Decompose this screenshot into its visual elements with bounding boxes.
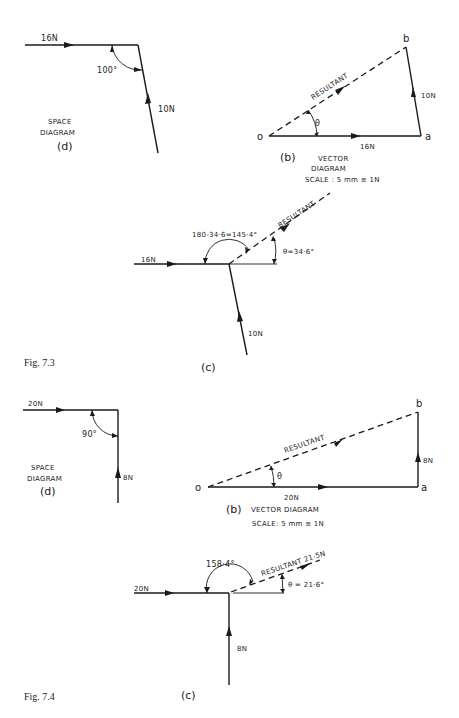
vector-diagram-tag: (b) xyxy=(280,151,296,164)
arrowhead-icon xyxy=(165,590,174,596)
resultant-label: RESULTANT xyxy=(283,433,326,455)
arrowhead-icon xyxy=(226,626,232,636)
figure-caption: Fig. 7.3 xyxy=(24,357,55,368)
resultant-diagram-tag: (c) xyxy=(181,689,196,702)
arrowhead-icon xyxy=(204,587,210,593)
arrowhead-icon xyxy=(145,93,151,104)
force-label-8n: 8N xyxy=(237,645,247,653)
arrowhead-icon xyxy=(115,467,121,478)
side-oa-label: 16N xyxy=(360,143,375,151)
space-diagram-tag: (d) xyxy=(57,140,73,153)
space-diagram-title-2: DIAGRAM xyxy=(27,475,62,483)
resultant-diagram-tag: (c) xyxy=(201,361,216,374)
space-diagram-title-2: DIAGRAM xyxy=(40,129,75,137)
point-a: a xyxy=(425,131,431,142)
arrowhead-icon xyxy=(415,452,421,462)
fig-7-4: 20N 90° 8N SPACE DIAGRAM (d) o a b 20N 8… xyxy=(23,398,433,702)
arrowhead-icon xyxy=(351,133,361,139)
point-o: o xyxy=(257,131,263,142)
arrowhead-icon xyxy=(237,311,243,322)
force-label-20n: 20N xyxy=(28,400,43,408)
vector-diagram-scale: SCALE: 5 mm ≡ 1N xyxy=(252,520,324,528)
arrowhead-icon xyxy=(64,42,74,48)
vector-diagram-title-2: DIAGRAM xyxy=(311,165,346,173)
fig74-vector-diagram: o a b 20N 8N RESULTANT θ (b) VECTOR DIAG… xyxy=(195,398,433,528)
vector-diagram-tag: (b) xyxy=(226,503,242,516)
point-b: b xyxy=(403,33,409,44)
fig73-space-diagram: 16N 100° 10N SPACE DIAGRAM (d) xyxy=(25,34,175,153)
arrowhead-icon xyxy=(318,484,328,490)
angle-label: 90° xyxy=(82,430,97,439)
side-oa-label: 20N xyxy=(284,494,299,502)
arrowhead-icon xyxy=(112,433,118,438)
fig73-resultant-diagram: 16N 10N 180-34·6=145·4° θ=34·6° RESULTAN… xyxy=(134,193,330,374)
fig-7-3: 16N 100° 10N SPACE DIAGRAM (d) o a b 16N… xyxy=(24,33,436,374)
space-diagram-tag: (d) xyxy=(40,485,56,498)
theta-label: θ xyxy=(315,119,320,128)
arrowhead-icon xyxy=(271,236,276,241)
theta-value-label: θ=34·6° xyxy=(283,248,314,256)
force-label-16n: 16N xyxy=(141,256,156,264)
theta-label: θ xyxy=(277,472,282,481)
angle-label: 100° xyxy=(97,66,117,75)
resultant-label: RESULTANT xyxy=(277,200,317,230)
arrowhead-icon xyxy=(134,67,142,72)
obtuse-angle-arc xyxy=(205,239,249,264)
arrowhead-icon xyxy=(110,45,114,52)
side-ab-label: 8N xyxy=(423,457,433,465)
theta-value-label: θ = 21·6° xyxy=(288,581,324,589)
force-label-8n: 8N xyxy=(123,474,133,482)
point-o: o xyxy=(195,482,201,493)
figure-caption: Fig. 7.4 xyxy=(24,691,55,702)
point-b: b xyxy=(416,398,422,409)
force-label-10n: 10N xyxy=(248,330,263,338)
fig74-space-diagram: 20N 90° 8N SPACE DIAGRAM (d) xyxy=(23,400,133,503)
arrowhead-icon xyxy=(334,439,343,447)
resultant-dashed-line xyxy=(208,412,418,487)
space-diagram-title-1: SPACE xyxy=(48,118,72,126)
vector-diagram-title: VECTOR DIAGRAM xyxy=(251,506,319,514)
obtuse-angle-label: 158·4° xyxy=(206,560,235,569)
side-ab-label: 10N xyxy=(421,92,436,100)
fig74-resultant-diagram: 20N 8N 158·4° θ = 21·6° RESULTANT 21·5N … xyxy=(134,549,327,702)
obtuse-angle-label: 180-34·6=145·4° xyxy=(192,231,257,239)
point-a: a xyxy=(421,482,427,493)
vector-diagram-scale: SCALE : 5 mm ≡ 1N xyxy=(305,176,380,184)
force-label-20n: 20N xyxy=(134,585,149,593)
vector-diagram-title-1: VECTOR xyxy=(318,155,349,163)
force-label-16n: 16N xyxy=(41,34,58,43)
arrowhead-icon xyxy=(56,407,65,413)
fig73-vector-diagram: o a b 16N 10N RESULTANT θ (b) VECTOR DIA… xyxy=(257,33,436,184)
arrowhead-icon xyxy=(280,589,285,593)
force-10n-line xyxy=(229,264,247,355)
arrowhead-icon xyxy=(203,258,208,264)
force-diagrams-figure: 16N 100° 10N SPACE DIAGRAM (d) o a b 16N… xyxy=(0,0,459,718)
arrowhead-icon xyxy=(167,261,177,267)
force-label-10n: 10N xyxy=(158,105,175,114)
space-diagram-title-1: SPACE xyxy=(31,464,55,472)
arrowhead-icon xyxy=(335,86,345,95)
arrowhead-icon xyxy=(90,410,95,416)
resultant-label: RESULTANT 21·5N xyxy=(260,549,327,577)
